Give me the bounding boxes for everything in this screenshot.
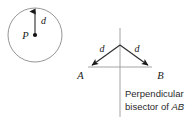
circle-radius-diagram: P d — [8, 8, 62, 62]
caption-line-2-segment: AB — [170, 101, 184, 112]
left-distance-label: d — [100, 43, 106, 54]
center-point-dot — [33, 33, 37, 37]
right-distance-label: d — [135, 43, 141, 54]
caption-line-2-prefix: bisector of — [125, 101, 171, 112]
geometry-figure: P d d d A B Perpendicular bisector of AB — [0, 0, 193, 117]
point-a-label: A — [76, 70, 84, 81]
point-b-label: B — [157, 70, 164, 81]
center-point-label: P — [21, 30, 29, 41]
caption-line-1: Perpendicular — [125, 88, 184, 99]
radius-length-label: d — [41, 15, 47, 26]
perpendicular-bisector-diagram: d d A B Perpendicular bisector of AB — [76, 28, 185, 117]
arrow-apex-to-a — [92, 45, 120, 65]
figure-canvas: P d d d A B Perpendicular bisector of AB — [0, 0, 193, 117]
caption-line-2: bisector of AB — [125, 101, 185, 112]
